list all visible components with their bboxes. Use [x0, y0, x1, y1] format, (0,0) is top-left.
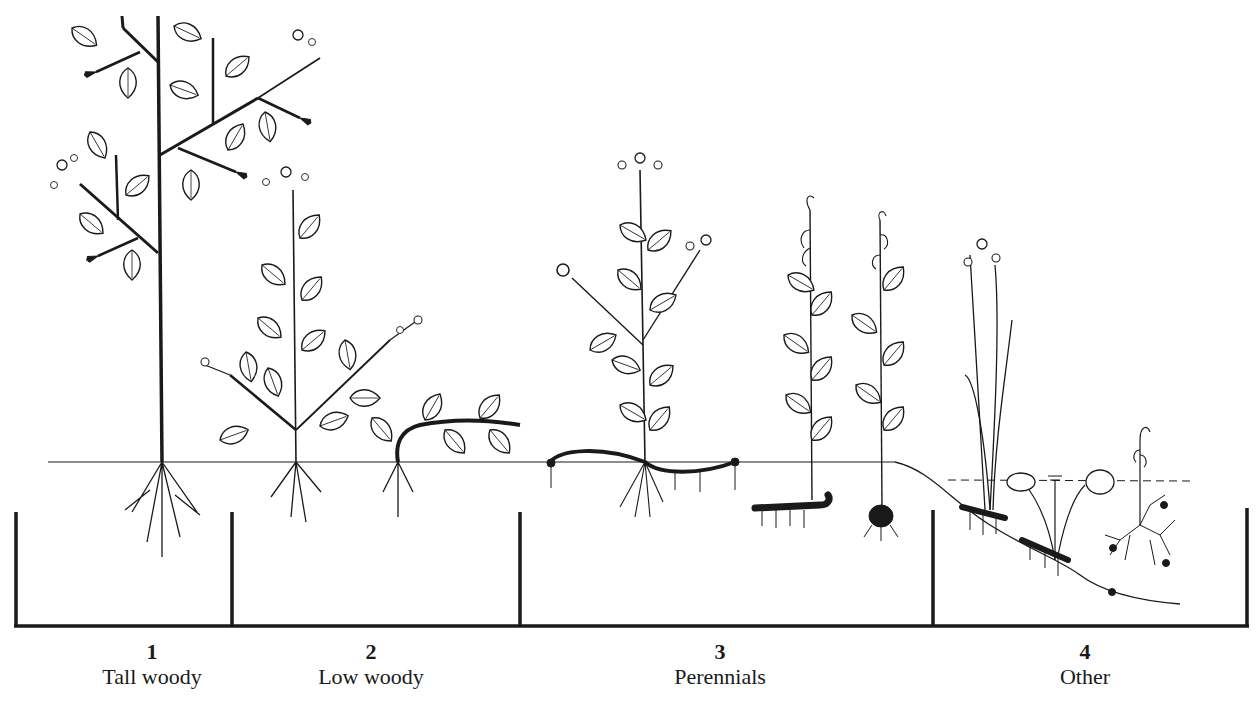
group-3-title: Perennials [674, 664, 766, 690]
perennials-icon [547, 153, 910, 541]
group-1-number: 1 [102, 640, 201, 664]
group-2-number: 2 [318, 640, 424, 664]
low-woody-shrub-icon [201, 167, 520, 522]
group-4-label: 4 Other [1060, 640, 1110, 690]
tall-woody-tree-icon [51, 16, 321, 557]
group-4-title: Other [1060, 664, 1110, 690]
group-3-number: 3 [674, 640, 766, 664]
category-brackets [14, 508, 1249, 627]
group-3-label: 3 Perennials [674, 640, 766, 690]
group-2-label: 2 Low woody [318, 640, 424, 690]
other-plants-icon [962, 239, 1175, 596]
group-2-title: Low woody [318, 664, 424, 690]
group-4-number: 4 [1060, 640, 1110, 664]
group-1-title: Tall woody [102, 664, 201, 690]
group-1-label: 1 Tall woody [102, 640, 201, 690]
plant-illustration [0, 0, 1258, 703]
